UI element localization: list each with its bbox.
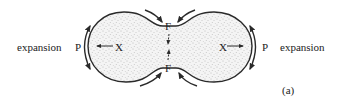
right-x-label: X [219, 42, 227, 53]
top-f-label: F [165, 21, 171, 32]
right-p-label: P [262, 42, 268, 53]
bottom-f-label: F [165, 63, 171, 74]
dumbbell-diagram: expansion P X F F X P expansion (a) [0, 0, 340, 109]
panel-label: (a) [282, 85, 294, 96]
left-x-label: X [115, 42, 123, 53]
left-p-label: P [75, 42, 81, 53]
left-expansion-label: expansion [17, 42, 62, 53]
right-expansion-label: expansion [280, 42, 325, 53]
